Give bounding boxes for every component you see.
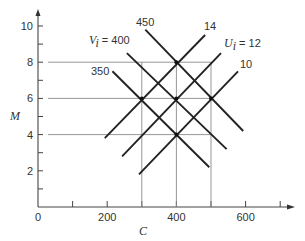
x-tick-label-600: 600 <box>236 211 254 223</box>
y-tick-label-8: 8 <box>27 56 33 68</box>
y-axis-label: M <box>9 109 21 123</box>
label-u10: 10 <box>240 58 252 70</box>
x-axis-label: C <box>139 224 148 238</box>
point-300-6 <box>140 96 144 100</box>
label-u12-value: = 12 <box>236 37 261 49</box>
reference-lines <box>48 62 211 207</box>
y-tick-label-10: 10 <box>21 20 33 32</box>
point-400-6 <box>174 96 178 100</box>
x-tick-labels: 0 200 400 600 <box>35 211 255 223</box>
point-500-6 <box>209 96 213 100</box>
y-tick-label-2: 2 <box>27 165 33 177</box>
y-tick-labels: 2 4 6 8 10 <box>21 20 33 177</box>
point-400-8 <box>174 60 178 64</box>
y-axis-arrow-icon <box>36 9 41 16</box>
label-v350: 350 <box>91 65 109 77</box>
x-tick-label-200: 200 <box>98 211 116 223</box>
label-u12: Ui = 12 <box>224 36 261 53</box>
x-tick-label-400: 400 <box>167 211 185 223</box>
label-v450: 450 <box>136 16 154 28</box>
y-ticks <box>38 26 43 189</box>
label-u14: 14 <box>204 20 216 32</box>
label-v400: Vi = 400 <box>89 33 130 50</box>
line-annotations: 350 Vi = 400 450 14 Ui = 12 10 <box>89 16 261 77</box>
label-v400-value: = 400 <box>99 34 130 46</box>
isoline-chart: 0 200 400 600 2 4 6 8 10 C M <box>0 0 305 241</box>
y-tick-label-4: 4 <box>27 129 33 141</box>
x-axis-arrow-icon <box>287 205 295 210</box>
point-400-4 <box>174 133 178 137</box>
x-tick-label-0: 0 <box>35 211 41 223</box>
y-tick-label-6: 6 <box>27 92 33 104</box>
